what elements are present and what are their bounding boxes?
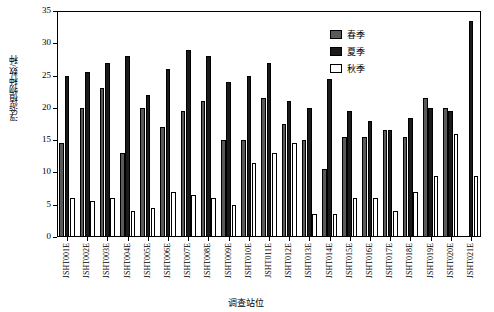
x-tick-mark <box>128 237 129 241</box>
legend-swatch <box>330 30 342 39</box>
x-tick-label: JSHT001E <box>62 243 71 278</box>
x-axis-label: 调查站位 <box>228 296 264 309</box>
legend-item: 春季 <box>330 28 365 41</box>
bar <box>454 134 459 237</box>
y-tick-label: 25 <box>29 70 51 80</box>
bar <box>469 21 474 237</box>
x-tick-mark <box>309 237 310 241</box>
bar <box>307 108 312 237</box>
bar <box>312 214 317 237</box>
x-tick-label: JSHT007E <box>183 243 192 278</box>
x-tick-label: JSHT006E <box>163 243 172 278</box>
bar <box>90 201 95 237</box>
y-tick-label: 15 <box>29 134 51 144</box>
bar <box>388 130 393 237</box>
bar <box>333 214 338 237</box>
x-tick-label: JSHT021E <box>466 243 475 278</box>
bar <box>206 56 211 237</box>
legend-label: 春季 <box>347 28 365 41</box>
x-tick-mark <box>229 237 230 241</box>
legend-label: 夏季 <box>347 45 365 58</box>
bar <box>403 137 408 237</box>
bar <box>125 56 130 237</box>
x-tick-label: JSHT016E <box>365 243 374 278</box>
x-tick-mark <box>269 237 270 241</box>
y-tick-mark <box>53 172 57 173</box>
bar <box>252 163 257 237</box>
y-tick-label: 30 <box>29 37 51 47</box>
bar <box>247 76 252 237</box>
legend-swatch <box>330 47 342 56</box>
y-tick-mark <box>53 237 57 238</box>
bar <box>85 72 90 237</box>
y-tick-label: 0 <box>29 231 51 241</box>
x-tick-label: JSHT004E <box>123 243 132 278</box>
x-tick-label: JSHT015E <box>345 243 354 278</box>
y-tick-mark <box>53 11 57 12</box>
x-tick-mark <box>350 237 351 241</box>
bar <box>171 192 176 237</box>
x-tick-mark <box>451 237 452 241</box>
bar <box>261 98 266 237</box>
bar <box>272 153 277 237</box>
x-tick-mark <box>289 237 290 241</box>
bar <box>353 198 358 237</box>
bar <box>65 76 70 237</box>
legend-item: 夏季 <box>330 45 365 58</box>
y-tick-mark <box>53 108 57 109</box>
bar <box>241 140 246 237</box>
x-tick-mark <box>370 237 371 241</box>
bar <box>166 69 171 237</box>
y-tick-mark <box>53 140 57 141</box>
x-tick-label: JSHT013E <box>304 243 313 278</box>
bar <box>408 118 413 237</box>
x-tick-mark <box>249 237 250 241</box>
bar <box>232 205 237 237</box>
x-tick-label: JSHT009E <box>224 243 233 278</box>
bar <box>443 108 448 237</box>
bar <box>80 108 85 237</box>
bar <box>146 95 151 237</box>
x-tick-mark <box>410 237 411 241</box>
x-tick-label: JSHT020E <box>446 243 455 278</box>
bar <box>383 130 388 237</box>
bar <box>302 140 307 237</box>
bar <box>191 195 196 237</box>
bar <box>327 79 332 237</box>
x-tick-mark <box>107 237 108 241</box>
y-tick-mark <box>53 205 57 206</box>
x-tick-label: JSHT010E <box>244 243 253 278</box>
legend-label: 秋季 <box>347 62 365 75</box>
bar <box>160 127 165 237</box>
bar <box>362 137 367 237</box>
bar <box>59 143 64 237</box>
y-tick-mark <box>53 43 57 44</box>
y-tick-label: 20 <box>29 102 51 112</box>
legend-swatch <box>330 64 342 73</box>
y-tick-label: 5 <box>29 199 51 209</box>
bar <box>226 82 231 237</box>
x-tick-mark <box>431 237 432 241</box>
x-tick-mark <box>87 237 88 241</box>
x-tick-mark <box>471 237 472 241</box>
bar <box>201 101 206 237</box>
x-tick-label: JSHT002E <box>82 243 91 278</box>
bar <box>413 192 418 237</box>
x-tick-mark <box>168 237 169 241</box>
x-tick-label: JSHT019E <box>426 243 435 278</box>
y-tick-label: 35 <box>29 5 51 15</box>
bar <box>70 198 75 237</box>
x-tick-label: JSHT005E <box>143 243 152 278</box>
chart-container: 浮游植物种数/种 调查站位 05101520253035 JSHT001EJSH… <box>0 0 494 312</box>
x-tick-mark <box>188 237 189 241</box>
x-tick-label: JSHT014E <box>325 243 334 278</box>
bar <box>186 50 191 237</box>
bar <box>140 108 145 237</box>
x-tick-label: JSHT008E <box>203 243 212 278</box>
bar <box>221 140 226 237</box>
bar <box>368 121 373 237</box>
bar <box>267 63 272 237</box>
bar <box>181 111 186 237</box>
x-tick-label: JSHT003E <box>102 243 111 278</box>
bar <box>393 211 398 237</box>
